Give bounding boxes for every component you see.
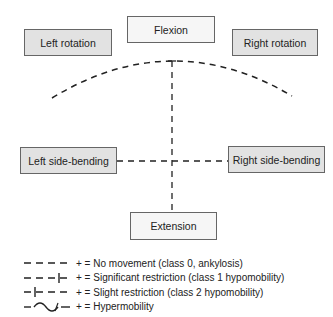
legend-item-slight-restriction: + = Slight restriction (class 2 hypomobi… <box>22 285 284 300</box>
legend-item-no-movement: + = No movement (class 0, ankylosis) <box>22 256 284 271</box>
right-side-bending-label: Right side-bending <box>233 154 321 166</box>
legend-text: + = Slight restriction (class 2 hypomobi… <box>76 287 263 298</box>
legend-text: + = Hypermobility <box>76 301 154 312</box>
dashed-line-icon <box>22 257 72 269</box>
left-rotation-box: Left rotation <box>24 29 112 56</box>
left-side-bending-box: Left side-bending <box>20 147 117 174</box>
extension-label: Extension <box>150 220 196 232</box>
flexion-box: Flexion <box>127 16 215 43</box>
legend: + = No movement (class 0, ankylosis) + =… <box>22 256 284 314</box>
dashed-line-tick-left-icon <box>22 286 72 298</box>
right-rotation-box: Right rotation <box>232 29 318 56</box>
dashed-line-tick-right-icon <box>22 272 72 284</box>
legend-item-significant-restriction: + = Significant restriction (class 1 hyp… <box>22 271 284 286</box>
left-rotation-label: Left rotation <box>40 37 95 49</box>
legend-item-hypermobility: + = Hypermobility <box>22 300 284 315</box>
left-side-bending-label: Left side-bending <box>28 155 109 167</box>
right-side-bending-box: Right side-bending <box>228 146 325 173</box>
extension-box: Extension <box>130 212 217 240</box>
legend-text: + = No movement (class 0, ankylosis) <box>76 258 243 269</box>
wave-line-icon <box>22 301 72 313</box>
right-rotation-label: Right rotation <box>244 37 306 49</box>
flexion-label: Flexion <box>154 24 188 36</box>
legend-text: + = Significant restriction (class 1 hyp… <box>76 272 284 283</box>
